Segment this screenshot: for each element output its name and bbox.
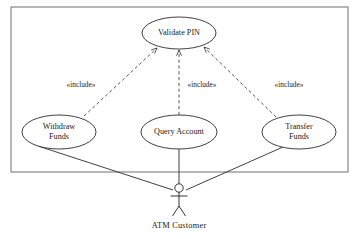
include-labels-group: «include» «include» «include»	[67, 80, 304, 89]
actor-label-atm-customer: ATM Customer	[152, 221, 207, 230]
diagram-canvas: «include» «include» «include» Validate P…	[0, 0, 353, 239]
association-transfer-to-actor	[186, 147, 283, 190]
use-case-validate-pin[interactable]: Validate PIN	[142, 17, 216, 49]
include-label-withdraw: «include»	[67, 80, 96, 89]
actor-atm-customer[interactable]: ATM Customer	[152, 184, 207, 230]
use-case-label-query-account: Query Account	[154, 127, 205, 136]
use-case-query-account[interactable]: Query Account	[141, 115, 217, 149]
actor-head-icon	[175, 184, 183, 192]
uml-use-case-diagram: «include» «include» «include» Validate P…	[0, 0, 353, 239]
use-case-label-validate-pin: Validate PIN	[158, 28, 200, 37]
use-case-transfer-funds[interactable]: TransferFunds	[262, 115, 336, 149]
use-case-withdraw-funds[interactable]: WithdrawFunds	[22, 115, 96, 149]
association-withdraw-to-actor	[38, 146, 173, 190]
include-label-query: «include»	[188, 80, 217, 89]
association-lines-group	[38, 146, 283, 190]
actor-right-leg-line	[179, 206, 186, 216]
actor-left-leg-line	[173, 206, 180, 216]
include-label-transfer: «include»	[275, 80, 304, 89]
include-arrows-group	[84, 47, 276, 117]
use-case-label-transfer-funds: TransferFunds	[285, 122, 313, 141]
